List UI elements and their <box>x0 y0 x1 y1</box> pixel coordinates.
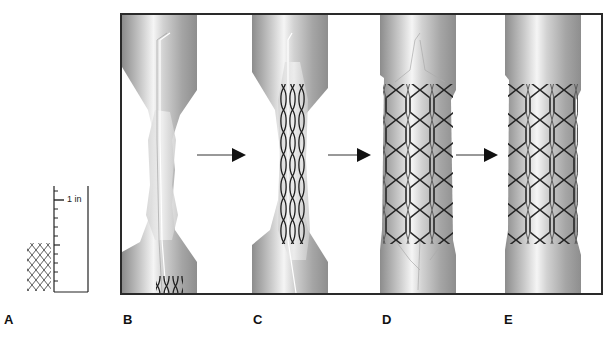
arrow-d-to-e <box>456 148 498 162</box>
ruler-unit-label: 1 in <box>67 194 82 204</box>
panel-b <box>122 15 197 293</box>
panel-label-b: B <box>123 312 132 327</box>
crimped-stent <box>279 84 306 244</box>
expanded-stent <box>383 84 453 244</box>
panel-label-a: A <box>4 312 13 327</box>
arrow-c-to-d <box>328 148 371 162</box>
deployed-stent <box>508 84 578 244</box>
unexpanded-stent <box>27 243 51 291</box>
panel-c <box>252 15 328 293</box>
panel-d <box>380 15 456 293</box>
stent-deployment-diagram <box>0 0 614 337</box>
arrow-b-to-c <box>197 148 246 162</box>
panel-label-c: C <box>253 312 262 327</box>
panel-e <box>505 15 581 293</box>
crimped-stent-entering <box>156 276 183 293</box>
panel-label-e: E <box>504 312 513 327</box>
panel-label-d: D <box>382 312 391 327</box>
